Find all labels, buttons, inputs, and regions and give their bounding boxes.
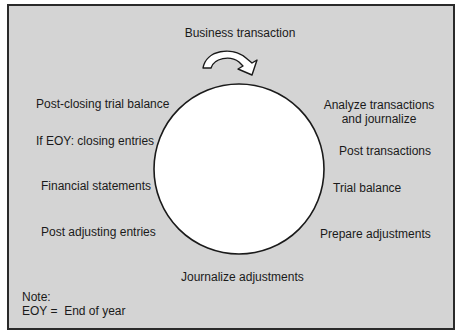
note-block: Note: EOY = End of year [22,290,126,318]
cycle-circle [154,84,324,254]
label-trial-balance: Trial balance [333,181,401,195]
label-business-transaction: Business transaction [160,26,320,40]
label-analyze-line1: Analyze transactions [318,98,440,112]
label-closing-entries: If EOY: closing entries [36,134,154,148]
label-financial-statements: Financial statements [41,179,151,193]
curved-arrow-icon [203,51,257,75]
label-post-closing-trial-balance: Post-closing trial balance [36,97,169,111]
label-journalize-adjustments: Journalize adjustments [181,270,304,284]
label-analyze-journalize: Analyze transactions and journalize [318,98,440,126]
label-prepare-adjustments: Prepare adjustments [320,227,431,241]
label-analyze-line2: and journalize [318,112,440,126]
note-title: Note: [22,290,126,304]
label-post-transactions: Post transactions [339,144,431,158]
note-text: EOY = End of year [22,304,126,318]
cycle-graphics [0,0,460,335]
label-post-adjusting-entries: Post adjusting entries [41,225,156,239]
